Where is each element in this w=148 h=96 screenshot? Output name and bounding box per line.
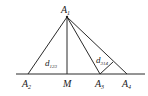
geometry-diagram: A1 A2 M A3 A4 d123 d314 xyxy=(0,0,148,96)
label-d123: d123 xyxy=(45,58,58,69)
segment-a1-a4 xyxy=(67,17,127,74)
point-a1 xyxy=(66,16,68,18)
segment-a1-a3 xyxy=(67,17,100,74)
label-d314: d314 xyxy=(96,55,109,66)
label-a4: A4 xyxy=(121,78,131,90)
label-a1: A1 xyxy=(60,4,70,16)
label-a2: A2 xyxy=(21,78,31,90)
label-a3: A3 xyxy=(94,78,104,90)
label-m: M xyxy=(62,78,72,89)
